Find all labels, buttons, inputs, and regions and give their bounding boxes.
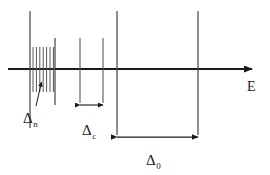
- figure-canvas: [0, 0, 270, 175]
- energy-axis-symbol: E: [247, 79, 256, 94]
- delta-n-label: Δn: [23, 110, 38, 129]
- delta-0-label: Δ0: [146, 152, 161, 171]
- delta-c-subscript: c: [92, 131, 97, 141]
- delta-c-label: Δc: [82, 122, 96, 141]
- energy-axis-label: E: [247, 80, 256, 94]
- delta-c-symbol: Δ: [82, 122, 92, 138]
- energy-spectrum-figure: Δn Δc Δ0 E: [0, 0, 270, 175]
- delta-n-subscript: n: [33, 119, 38, 129]
- delta-0-symbol: Δ: [146, 152, 156, 168]
- fine-level-cluster: [33, 47, 53, 92]
- delta-0-subscript: 0: [156, 161, 161, 171]
- delta-n-symbol: Δ: [23, 110, 33, 126]
